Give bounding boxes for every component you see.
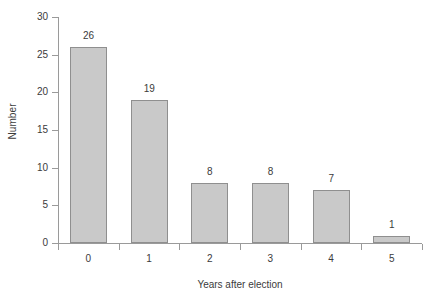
x-tick-label-0: 0 (68, 253, 108, 264)
y-tick-25 (52, 55, 58, 56)
bar-1 (131, 100, 168, 243)
y-tick-10 (52, 168, 58, 169)
x-tick-boundary-4 (301, 244, 302, 250)
x-tick-boundary-3 (240, 244, 241, 250)
y-tick-label-15: 15 (18, 125, 48, 135)
bar-value-5: 1 (367, 220, 417, 230)
bar-value-4: 7 (306, 174, 356, 184)
x-tick-label-3: 3 (250, 253, 290, 264)
x-tick-boundary-1 (119, 244, 120, 250)
x-tick-boundary-2 (179, 244, 180, 250)
bar-3 (252, 183, 289, 243)
x-axis-title: Years after election (58, 279, 422, 290)
y-tick-20 (52, 92, 58, 93)
bar-2 (191, 183, 228, 243)
y-tick-15 (52, 130, 58, 131)
bar-value-1: 19 (124, 84, 174, 94)
bar-value-0: 26 (64, 31, 114, 41)
x-tick-label-2: 2 (190, 253, 230, 264)
bar-chart: Number 30 25 20 15 10 5 0 26 19 8 8 7 1 … (0, 0, 433, 301)
y-tick-30 (52, 17, 58, 18)
x-tick-boundary-0 (58, 244, 59, 250)
y-tick-5 (52, 205, 58, 206)
bar-value-3: 8 (246, 167, 296, 177)
bar-5 (373, 236, 410, 244)
x-tick-boundary-5 (361, 244, 362, 250)
y-axis-title-text: Number (7, 103, 18, 139)
y-axis-line (58, 17, 59, 243)
x-tick-label-1: 1 (129, 253, 169, 264)
bar-0 (70, 47, 107, 243)
y-tick-label-30: 30 (18, 12, 48, 22)
x-tick-label-4: 4 (311, 253, 351, 264)
y-tick-label-0: 0 (18, 238, 48, 248)
y-tick-label-5: 5 (18, 200, 48, 210)
y-tick-label-25: 25 (18, 50, 48, 60)
x-tick-boundary-6 (422, 244, 423, 250)
y-tick-label-20: 20 (18, 87, 48, 97)
x-tick-label-5: 5 (372, 253, 412, 264)
bar-value-2: 8 (185, 167, 235, 177)
y-tick-label-10: 10 (18, 163, 48, 173)
bar-4 (313, 190, 350, 243)
